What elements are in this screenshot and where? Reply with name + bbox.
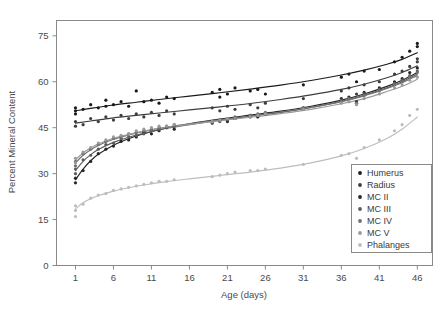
y-tick-label: 15 <box>38 214 49 225</box>
data-point <box>302 163 305 166</box>
data-point <box>157 102 160 105</box>
data-point <box>119 100 122 103</box>
data-point <box>173 97 176 100</box>
data-point <box>226 172 229 175</box>
data-point <box>142 183 145 186</box>
data-point <box>416 76 419 79</box>
data-point <box>74 167 77 170</box>
data-point <box>218 174 221 177</box>
x-tick-label: 26 <box>260 272 271 283</box>
data-point <box>97 141 100 144</box>
data-point <box>256 106 259 109</box>
data-point <box>112 118 115 121</box>
data-point <box>112 135 115 138</box>
data-point <box>256 114 259 117</box>
data-point <box>408 50 411 53</box>
data-point <box>264 92 267 95</box>
data-point <box>378 138 381 141</box>
data-point <box>112 141 115 144</box>
data-point <box>302 108 305 111</box>
x-tick-label: 41 <box>374 272 385 283</box>
data-point <box>226 117 229 120</box>
legend-label: Phalanges <box>367 240 410 250</box>
data-point <box>165 125 168 128</box>
data-point <box>416 45 419 48</box>
data-point <box>363 69 366 72</box>
data-point <box>393 86 396 89</box>
data-point <box>401 80 404 83</box>
data-point <box>74 204 77 207</box>
data-point <box>393 129 396 132</box>
data-point <box>74 161 77 164</box>
data-point <box>127 135 130 138</box>
data-point <box>218 118 221 121</box>
x-axis-title: Age (days) <box>221 289 267 300</box>
x-tick-label: 46 <box>412 272 423 283</box>
data-point <box>104 115 107 118</box>
data-point <box>89 103 92 106</box>
data-point <box>135 134 138 137</box>
data-point <box>302 97 305 100</box>
data-point <box>97 148 100 151</box>
data-point <box>416 71 419 74</box>
data-point <box>408 79 411 82</box>
data-point <box>347 72 350 75</box>
data-point <box>416 108 419 111</box>
data-point <box>355 80 358 83</box>
data-point <box>104 105 107 108</box>
data-point <box>104 138 107 141</box>
data-point <box>74 106 77 109</box>
data-point <box>393 83 396 86</box>
legend-marker-icon <box>358 195 362 199</box>
data-point <box>150 99 153 102</box>
data-point <box>363 97 366 100</box>
data-point <box>264 167 267 170</box>
data-point <box>211 175 214 178</box>
data-point <box>127 132 130 135</box>
data-point <box>81 203 84 206</box>
data-point <box>104 192 107 195</box>
data-point <box>408 71 411 74</box>
data-point <box>97 193 100 196</box>
data-point <box>89 154 92 157</box>
data-point <box>119 114 122 117</box>
legend-marker-icon <box>358 219 362 223</box>
data-point <box>81 108 84 111</box>
data-point <box>112 189 115 192</box>
data-point <box>416 60 419 63</box>
data-point <box>416 42 419 45</box>
mineral-content-scatter-chart: 01530456075 161116212631364146 Percent M… <box>0 0 446 310</box>
data-point <box>157 114 160 117</box>
data-point <box>226 105 229 108</box>
legend-marker-icon <box>358 183 362 187</box>
data-point <box>264 102 267 105</box>
data-point <box>119 187 122 190</box>
data-point <box>74 109 77 112</box>
data-point <box>378 68 381 71</box>
y-tick-label: 60 <box>38 76 49 87</box>
data-point <box>165 95 168 98</box>
data-point <box>233 86 236 89</box>
data-point <box>347 97 350 100</box>
y-tick-label: 30 <box>38 168 49 179</box>
legend-label: Radius <box>367 180 396 190</box>
data-point <box>249 169 252 172</box>
data-point <box>157 125 160 128</box>
data-point <box>363 146 366 149</box>
data-point <box>378 89 381 92</box>
data-point <box>97 152 100 155</box>
data-point <box>135 89 138 92</box>
x-tick-label: 31 <box>298 272 309 283</box>
data-point <box>218 95 221 98</box>
data-point <box>81 123 84 126</box>
data-point <box>393 60 396 63</box>
legend[interactable]: HumerusRadiusMC IIMC IIIMC IVMC VPhalang… <box>352 165 432 253</box>
legend-label: MC IV <box>367 216 392 226</box>
data-point <box>218 88 221 91</box>
legend-label: MC III <box>367 204 391 214</box>
data-point <box>401 123 404 126</box>
data-point <box>340 154 343 157</box>
data-point <box>104 148 107 151</box>
x-tick-label: 36 <box>336 272 347 283</box>
y-tick-label: 75 <box>38 30 49 41</box>
